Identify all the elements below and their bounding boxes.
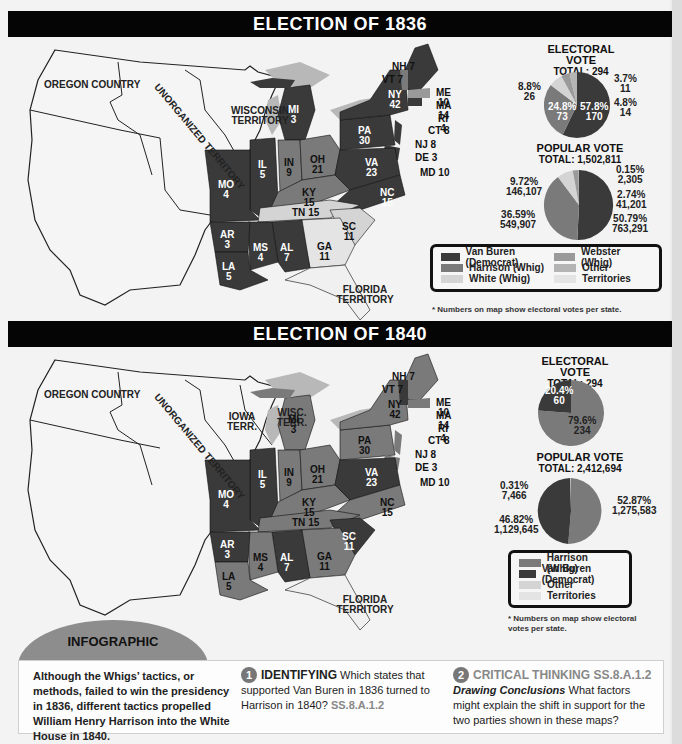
swatch-van-buren: [441, 253, 460, 261]
state-label-oh: OH21: [310, 155, 325, 175]
state-label-al: AL7: [280, 553, 293, 573]
pie-label-1836-p-o: 0.15%2,305: [616, 165, 644, 185]
state-label-oh: OH21: [310, 465, 325, 485]
question-identifying: 1IDENTIFYING Which states that supported…: [241, 667, 441, 713]
state-label-sc: SC11: [342, 222, 356, 242]
legend-item: Webster (Whig): [554, 251, 651, 262]
legend-item: Territories: [519, 590, 621, 601]
pie-label-1836-p-web: 2.74%41,201: [616, 190, 647, 210]
legend-1836: Van Buren (Democrat) Harrison (Whig) Whi…: [430, 244, 662, 292]
legend-item: White (Whig): [441, 273, 554, 284]
state-label-ms: MS4: [253, 553, 268, 573]
state-label-va: VA23: [365, 158, 378, 178]
pie-1836-popular: [542, 168, 616, 242]
swatch-harrison: [441, 264, 463, 272]
callout-ct: CT 8: [428, 126, 450, 136]
state-label-tn: TN 15: [292, 208, 319, 218]
callout-de: DE 3: [415, 153, 437, 163]
swatch-white: [441, 275, 463, 283]
territory-florida: FLORIDA TERRITORY: [330, 595, 400, 615]
pie-label-1836-e-o: 3.7%11: [614, 74, 637, 94]
state-label-mo: MO4: [218, 490, 234, 510]
pie-label-1836-p-w: 9.72%146,107: [506, 177, 542, 197]
pie-label-1836-e-w: 8.8%26: [518, 82, 541, 102]
pie-label-1836-e-web: 4.8%14: [614, 98, 637, 118]
state-label-la: LA5: [222, 262, 235, 282]
state-label-ms: MS4: [253, 243, 268, 263]
pie-label-1840-e-vb: 20.4%60: [545, 386, 573, 406]
swatch-van-buren: [519, 570, 536, 578]
legend-item: Territories: [554, 273, 651, 284]
state-label-va: VA23: [365, 468, 378, 488]
pie-label-1836-p-vb: 50.79%763,291: [612, 214, 648, 234]
state-label-mi: MI3: [288, 105, 299, 125]
pie-label-1840-p-h: 52.87%1,275,583: [612, 496, 657, 516]
swatch-other: [554, 264, 576, 272]
territory-oregon-country: OREGON COUNTRY: [44, 80, 140, 90]
callout-de: DE 3: [415, 463, 437, 473]
callout-nh: NH 7: [392, 62, 415, 72]
callout-md: MD 10: [420, 478, 449, 488]
footnote-1836: * Numbers on map show electoral votes pe…: [432, 305, 621, 315]
map-1840: OREGON COUNTRY UNORGANIZED TERRITORY IOW…: [10, 350, 450, 630]
state-label-ky: KY15: [302, 498, 316, 518]
state-label-nc: NC15: [380, 498, 394, 518]
swatch-territories: [519, 592, 541, 600]
pie-label-1836-p-h: 36.59%549,907: [500, 210, 536, 230]
callout-vt: VT 7: [382, 385, 403, 395]
callout-md: MD 10: [420, 168, 449, 178]
state-label-tn: TN 15: [292, 518, 319, 528]
state-label-ar: AR3: [220, 540, 234, 560]
infographic-box: Although the Whigs’ tactics, or methods,…: [18, 660, 664, 734]
pie-label-1836-e-h: 24.8%73: [548, 102, 576, 122]
state-label-nc: NC15: [380, 188, 394, 208]
state-label-pa: PA30: [358, 436, 371, 456]
state-label-ga: GA11: [317, 552, 332, 572]
pie-label-1836-e-vb: 57.8%170: [580, 102, 608, 122]
banner-1836: ELECTION OF 1836: [8, 11, 672, 37]
state-label-mo: MO4: [218, 180, 234, 200]
legend-item: Harrison (Whig): [441, 262, 554, 273]
swatch-territories: [554, 275, 576, 283]
callout-nh: NH 7: [392, 372, 415, 382]
callout-ct: CT 8: [428, 436, 450, 446]
state-label-in: IN9: [284, 468, 294, 488]
state-label-in: IN9: [284, 158, 294, 178]
state-label-ky: KY15: [302, 188, 316, 208]
swatch-webster: [554, 253, 575, 261]
state-label-il: IL5: [258, 160, 267, 180]
state-label-la: LA5: [222, 572, 235, 592]
pie-1836-popular-title: POPULAR VOTE TOTAL: 1,502,811: [530, 143, 630, 165]
pie-label-1840-e-h: 79.6%234: [568, 416, 596, 436]
callout-nj: NJ 8: [415, 140, 436, 150]
pie-1840-popular: [536, 476, 606, 546]
swatch-harrison: [519, 559, 541, 567]
banner-1840: ELECTION OF 1840: [8, 321, 672, 347]
territory-florida: FLORIDA TERRITORY: [330, 285, 400, 305]
page-edge: [672, 0, 682, 744]
territory-iowa: IOWA TERR.: [222, 412, 262, 432]
state-label-ar: AR3: [220, 230, 234, 250]
number-badge-2: 2: [453, 667, 469, 683]
legend-1840: Harrison (Whig) Van Buren (Democrat) Oth…: [508, 550, 632, 608]
state-label-al: AL7: [280, 243, 293, 263]
number-badge-1: 1: [241, 667, 257, 683]
legend-item: Van Buren (Democrat): [519, 568, 621, 579]
callout-vt: VT 7: [382, 75, 403, 85]
state-label-ny: NY42: [388, 90, 402, 110]
textbook-page: ELECTION OF 1836: [0, 0, 670, 744]
state-label-ga: GA11: [317, 242, 332, 262]
swatch-other: [519, 581, 541, 589]
state-label-sc: SC11: [342, 532, 356, 552]
question-critical-thinking: 2CRITICAL THINKING SS.8.A.1.2 Drawing Co…: [453, 667, 658, 728]
map-1836: OREGON COUNTRY UNORGANIZED TERRITORY WIS…: [10, 40, 450, 320]
pie-1840-popular-title: POPULAR VOTE TOTAL: 2,412,694: [530, 452, 630, 474]
state-label-il: IL5: [258, 470, 267, 490]
territory-wisconsin: WISCONSIN TERRITORY: [225, 106, 295, 126]
state-label-mi: MI3: [288, 415, 299, 435]
legend-item: Van Buren (Democrat): [441, 251, 554, 262]
territory-oregon-country: OREGON COUNTRY: [44, 390, 140, 400]
state-label-pa: PA30: [358, 126, 371, 146]
infographic-intro: Although the Whigs’ tactics, or methods,…: [33, 669, 233, 744]
state-label-ny: NY42: [388, 400, 402, 420]
